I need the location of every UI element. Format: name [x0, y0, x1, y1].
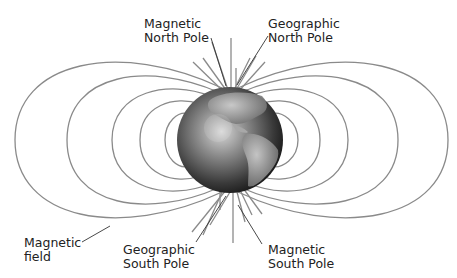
- label-magnetic-field: Magnetic field: [24, 236, 81, 264]
- label-magnetic-south-pole: Magnetic South Pole: [268, 243, 334, 271]
- label-geographic-north-pole: Geographic North Pole: [268, 17, 340, 45]
- north-pole-field-lines: [193, 38, 265, 92]
- label-magnetic-north-pole: Magnetic North Pole: [144, 17, 209, 45]
- south-pole-field-lines: [192, 188, 262, 243]
- label-geographic-south-pole: Geographic South Pole: [123, 243, 195, 271]
- earth-globe: [177, 87, 283, 193]
